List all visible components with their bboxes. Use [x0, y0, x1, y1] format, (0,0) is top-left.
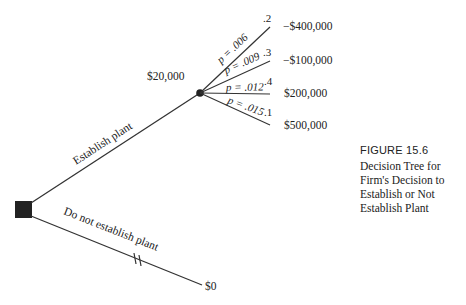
- figure-label: FIGURE 15.6: [360, 144, 466, 156]
- outcome-3-payoff: $200,000: [284, 87, 327, 100]
- outcome-4-probability: .1: [264, 106, 272, 118]
- figure-caption-text: Decision Tree for Firm's Decision to Est…: [360, 159, 466, 215]
- establish-plant-label: Establish plant: [71, 119, 136, 167]
- outcome-3-p-label: p = .012: [225, 80, 264, 93]
- not-establish-label: Do not establish plant: [62, 205, 161, 254]
- outcome-4-payoff: $500,000: [284, 119, 327, 132]
- outcome-1-probability: .2: [263, 12, 271, 24]
- outcome-2-payoff: −$100,000: [283, 54, 333, 67]
- not-establish-payoff: $0: [205, 280, 217, 292]
- figure-caption: FIGURE 15.6 Decision Tree for Firm's Dec…: [360, 144, 466, 215]
- outcome-2-probability: .3: [263, 46, 272, 58]
- decision-tree-figure: Establish plant Do not establish plant $…: [0, 0, 466, 305]
- decision-node-square: [15, 201, 32, 218]
- outcome-3-probability: .4: [264, 75, 273, 87]
- establish-plant-branch: [31, 93, 200, 203]
- chance-node-value: $20,000: [147, 70, 185, 83]
- outcome-branch-3: [200, 93, 270, 94]
- outcome-1-payoff: −$400,000: [283, 20, 333, 33]
